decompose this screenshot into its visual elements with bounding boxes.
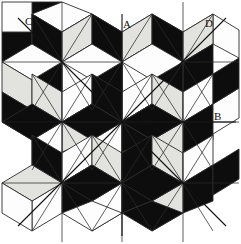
figure-root: A B C D O bbox=[0, 0, 241, 244]
origin-label: O bbox=[142, 118, 148, 126]
axis-label-a: A bbox=[123, 19, 131, 30]
axis-label-c: C bbox=[25, 16, 32, 27]
axis-label-b: B bbox=[214, 111, 221, 122]
axis-label-d: D bbox=[205, 18, 213, 29]
tessellation-diagram bbox=[0, 0, 241, 244]
